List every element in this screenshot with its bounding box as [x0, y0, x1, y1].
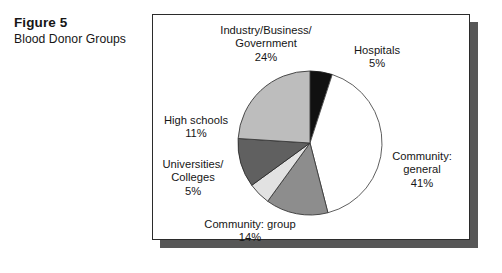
figure-number: Figure 5 [14, 15, 146, 31]
slice-label-hospitals: Hospitals 5% [334, 44, 420, 71]
slice-label-community-group: Community: group 14% [176, 218, 324, 245]
slice-label-high-schools: High schools 11% [144, 114, 248, 141]
slice-label-industry-business-government: Industry/Business/ Government 24% [198, 24, 334, 64]
figure-caption: Figure 5 Blood Donor Groups [14, 15, 146, 47]
slice-label-universities-colleges: Universities/ Colleges 5% [140, 158, 246, 198]
slice-label-community-general: Community: general 41% [374, 150, 470, 190]
figure-title: Blood Donor Groups [14, 32, 146, 47]
